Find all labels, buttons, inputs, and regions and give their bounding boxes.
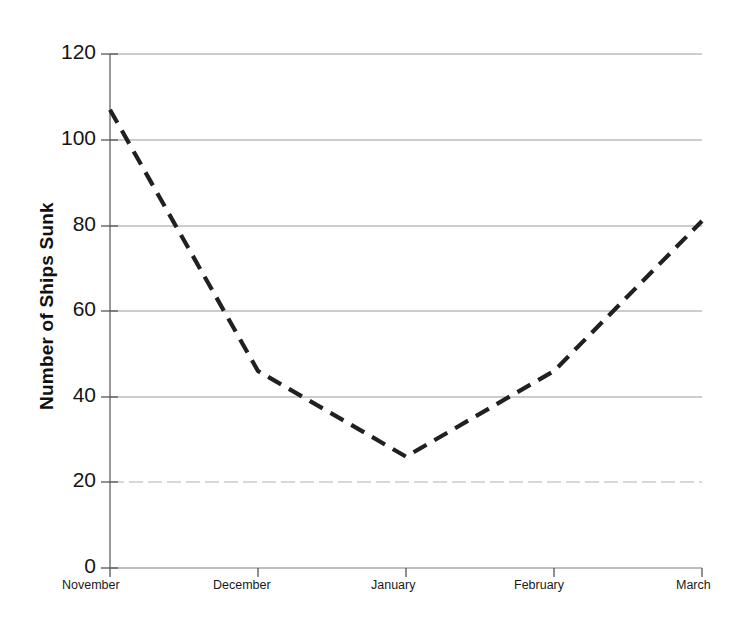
x-tick-label-january: January	[371, 578, 415, 592]
y-tick-label-120: 120	[36, 41, 96, 62]
y-tick-label-100: 100	[36, 127, 96, 148]
chart-container: Number of Ships Sunk 120 100 80 60 40 20…	[0, 0, 755, 633]
line-chart-plot	[0, 0, 755, 633]
y-tick-label-20: 20	[36, 469, 96, 490]
x-tick-label-february: February	[514, 578, 564, 592]
x-tick-label-march: March	[676, 578, 711, 592]
x-axis-ticks	[110, 568, 702, 577]
y-tick-label-80: 80	[36, 213, 96, 234]
y-tick-label-40: 40	[36, 384, 96, 405]
y-tick-label-0: 0	[36, 555, 96, 576]
x-tick-label-november: November	[62, 578, 120, 592]
data-series-line	[110, 110, 702, 457]
x-tick-label-december: December	[213, 578, 271, 592]
y-tick-label-60: 60	[36, 298, 96, 319]
